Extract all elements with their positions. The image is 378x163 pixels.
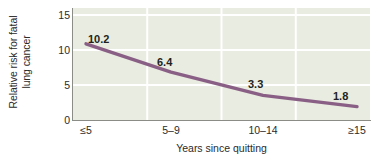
x-tick-label-3: ≥15	[348, 125, 365, 136]
data-label-3: 1.8	[333, 91, 348, 102]
chart-figure: Relative risk for fatal lung cancer 15 1…	[0, 0, 378, 163]
data-label-2: 3.3	[248, 79, 263, 90]
y-axis-tick-labels: 15 10 5 0	[42, 0, 70, 163]
x-tick-label-1: 5–9	[162, 125, 180, 136]
y-tick-label-0: 0	[44, 115, 70, 126]
y-tick-label-5: 5	[44, 80, 70, 91]
y-tick-label-10: 10	[44, 45, 70, 56]
y-axis-line	[72, 8, 73, 121]
data-label-0: 10.2	[88, 34, 109, 45]
data-label-1: 6.4	[157, 57, 172, 68]
plot-area	[73, 8, 370, 120]
y-axis-title-line-2: lung cancer	[20, 16, 33, 109]
x-tick-label-2: 10–14	[248, 125, 277, 136]
y-axis-title: Relative risk for fatal lung cancer	[0, 0, 40, 124]
x-axis-line	[72, 120, 371, 121]
y-axis-title-line-1: Relative risk for fatal	[7, 16, 20, 109]
x-axis-title: Years since quitting	[73, 143, 370, 154]
y-tick-label-15: 15	[44, 10, 70, 21]
x-tick-label-0: ≤5	[80, 125, 92, 136]
